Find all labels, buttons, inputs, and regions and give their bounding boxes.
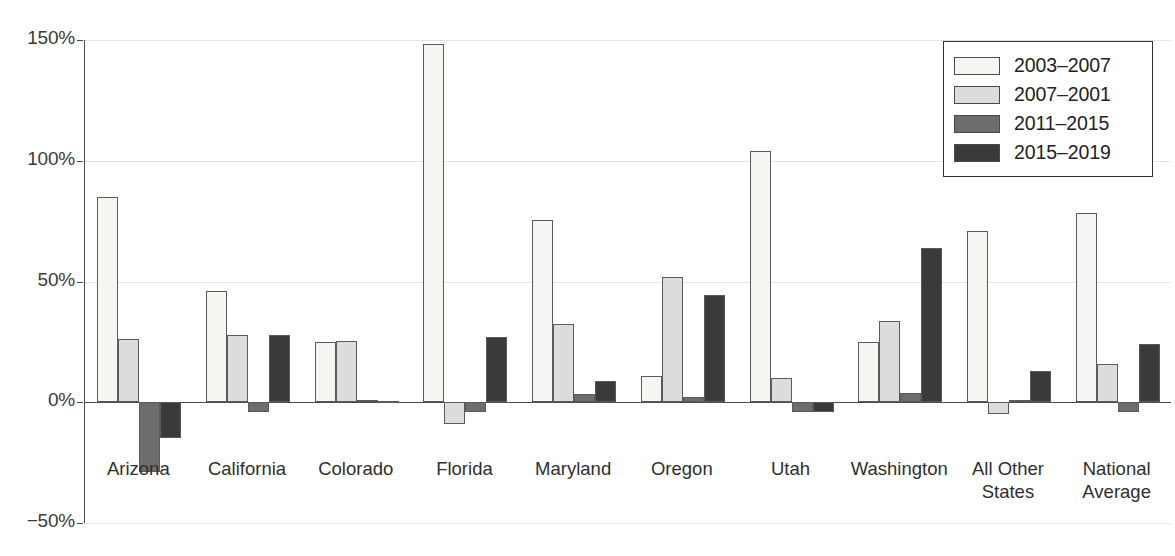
x-tick-label: Maryland [513,457,634,480]
y-tick-label: 100% [0,148,75,170]
bar-group [750,40,834,523]
bar[interactable] [553,324,574,402]
legend-label: 2007–2001 [1014,83,1111,106]
bar[interactable] [879,321,900,402]
y-tick-label: −50% [0,510,75,532]
y-tick [77,523,83,524]
bar-group [97,40,181,523]
bar[interactable] [269,335,290,403]
bar[interactable] [771,378,792,402]
x-tick-label: California [187,457,308,480]
legend-item[interactable]: 2007–2001 [944,80,1152,109]
bar[interactable] [465,402,486,412]
x-tick-label: National Average [1056,457,1175,503]
bar-group [315,40,399,523]
bar[interactable] [813,402,834,412]
bar-group [206,40,290,523]
bar[interactable] [248,402,269,412]
bar[interactable] [227,335,248,403]
bar[interactable] [1118,402,1139,412]
bar[interactable] [118,339,139,402]
y-tick-label: 0% [0,389,75,411]
bar[interactable] [315,342,336,402]
bar[interactable] [378,401,399,403]
legend-swatch-2011-2015 [954,115,1000,133]
bar-chart: 150%100%50%0%−50% ArizonaCaliforniaColor… [0,0,1175,556]
bar[interactable] [160,402,181,438]
bar[interactable] [900,393,921,403]
bar[interactable] [97,197,118,402]
y-tick [77,402,83,403]
x-tick-label: Washington [839,457,960,480]
legend-swatch-2015-2019 [954,144,1000,162]
legend-swatch-2007-2001 [954,86,1000,104]
bar[interactable] [988,402,1009,414]
bar[interactable] [1030,371,1051,402]
bar[interactable] [357,400,378,402]
x-tick-label: Utah [730,457,851,480]
bar[interactable] [858,342,879,402]
x-tick-label: Florida [404,457,525,480]
y-tick [77,282,83,283]
bar-group [641,40,725,523]
bar[interactable] [1009,400,1030,402]
bar[interactable] [336,341,357,403]
bar[interactable] [967,231,988,402]
bar[interactable] [921,248,942,403]
x-tick-label: Oregon [622,457,743,480]
bar[interactable] [1139,344,1160,402]
bar[interactable] [532,220,553,402]
bar[interactable] [792,402,813,412]
legend-label: 2003–2007 [1014,54,1111,77]
legend-label: 2015–2019 [1014,141,1111,164]
y-tick-label: 50% [0,269,75,291]
legend-item[interactable]: 2011–2015 [944,109,1152,138]
bar[interactable] [595,381,616,403]
x-tick-label: All Other States [948,457,1069,503]
x-tick-label: Colorado [295,457,416,480]
y-tick [77,161,83,162]
bar[interactable] [641,376,662,403]
bar-group [858,40,942,523]
legend: 2003–2007 2007–2001 2011–2015 2015–2019 [943,41,1153,177]
bar-group [423,40,507,523]
bar[interactable] [206,291,227,402]
y-tick-label: 150% [0,27,75,49]
bar[interactable] [683,397,704,402]
bar[interactable] [423,44,444,403]
legend-item[interactable]: 2003–2007 [944,51,1152,80]
x-tick-label: Arizona [78,457,199,480]
bar-group [532,40,616,523]
bar[interactable] [574,394,595,402]
legend-swatch-2003-2007 [954,57,1000,75]
legend-label: 2011–2015 [1014,112,1109,135]
bar[interactable] [486,337,507,402]
bar[interactable] [662,277,683,403]
bar[interactable] [1097,364,1118,403]
bar[interactable] [704,295,725,402]
bar[interactable] [444,402,465,424]
bar[interactable] [1076,213,1097,403]
bar[interactable] [750,151,771,402]
y-tick [77,40,83,41]
legend-item[interactable]: 2015–2019 [944,138,1152,167]
gridline [84,523,1171,524]
